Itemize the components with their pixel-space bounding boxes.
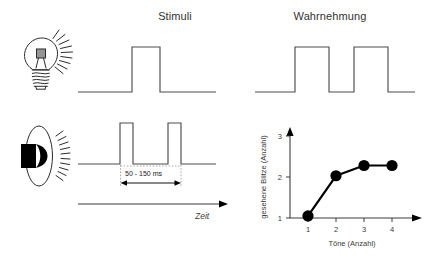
x-axis-title: Töne (Anzahl) (328, 239, 376, 248)
y-axis-ticks: 3 2 1 (278, 132, 290, 223)
figure-root: Stimuli Wahrnehmung (0, 0, 430, 264)
y-tick-1: 1 (278, 214, 282, 223)
x-tick-4: 4 (390, 225, 394, 234)
lightbulb-icon (12, 26, 78, 100)
chart-data-point (302, 210, 313, 221)
sound-stimulus-trace (78, 120, 216, 168)
time-axis: Zeit (78, 196, 238, 224)
x-tick-2: 2 (334, 225, 338, 234)
y-tick-2: 2 (278, 173, 282, 182)
chart-data-point (386, 160, 397, 171)
loudspeaker-icon (14, 118, 86, 194)
y-tick-3: 3 (278, 132, 282, 141)
flash-count-chart: 3 2 1 1 2 3 4 Töne (Anzahl) gesehene Bli… (252, 122, 424, 252)
x-axis-arrow (412, 214, 422, 221)
x-tick-3: 3 (362, 225, 366, 234)
light-stimulus-trace (78, 42, 216, 96)
chart-line-series (308, 166, 392, 216)
y-axis-title: gesehene Blitze (Anzahl) (259, 135, 268, 219)
chart-markers (302, 160, 397, 222)
interval-label: 50 - 150 ms (125, 170, 162, 177)
x-tick-1: 1 (306, 225, 310, 234)
column-title-wahrnehmung: Wahrnehmung (255, 10, 405, 22)
interval-annotation: 50 - 150 ms (78, 165, 216, 191)
x-axis-ticks: 1 2 3 4 (306, 218, 394, 234)
time-axis-label: Zeit (194, 211, 210, 221)
chart-data-point (330, 170, 341, 181)
column-title-stimuli: Stimuli (110, 10, 240, 22)
chart-data-point (358, 160, 369, 171)
y-axis-arrow (286, 127, 293, 136)
light-perception-trace (255, 42, 415, 96)
